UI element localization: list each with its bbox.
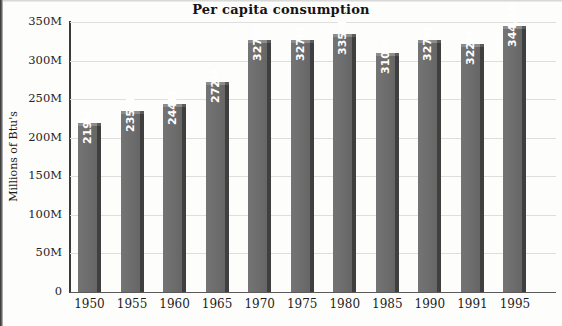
bar-front-face	[376, 53, 395, 292]
y-axis-tick-label: 150M	[4, 168, 62, 182]
bar-top-corner	[97, 123, 101, 126]
bar-top-face	[376, 53, 395, 56]
bar-side-face	[352, 37, 356, 292]
bar-front-face	[121, 111, 140, 292]
bar-top-face	[121, 111, 140, 114]
bar-side-face	[225, 85, 229, 292]
bar-side-face	[480, 47, 484, 292]
bar-top-face	[163, 104, 182, 107]
y-axis-tick-label: 300M	[4, 53, 62, 67]
bar-top-corner	[310, 40, 314, 43]
y-axis-tick-label: 50M	[4, 245, 62, 259]
bar-top-face	[248, 40, 267, 43]
bar-side-face	[97, 126, 101, 292]
bar-side-face	[395, 56, 399, 292]
bar-top-corner	[437, 40, 441, 43]
bar-front-face	[461, 44, 480, 292]
bar-top-face	[418, 40, 437, 43]
bar-side-face	[522, 29, 526, 292]
bar-side-face	[310, 43, 314, 292]
y-axis-tick-label: 100M	[4, 207, 62, 221]
bar[interactable]: 327M	[418, 40, 441, 292]
bar-top-corner	[225, 82, 229, 85]
bar-top-corner	[480, 44, 484, 47]
bar-side-face	[437, 43, 441, 292]
bar-front-face	[291, 40, 310, 292]
bar-top-corner	[522, 26, 526, 29]
x-axis-line	[70, 292, 556, 293]
y-axis-tick-label: 250M	[4, 91, 62, 105]
bar-top-corner	[352, 34, 356, 37]
bar-top-corner	[182, 104, 186, 107]
bar[interactable]: 244M	[163, 104, 186, 292]
bar-front-face	[503, 26, 522, 292]
bar-top-corner	[395, 53, 399, 56]
bar-front-face	[78, 123, 97, 292]
chart-container: Per capita consumption Millions of Btu's…	[0, 0, 562, 326]
x-axis-tick-label: 1995	[485, 297, 545, 311]
bar-front-face	[418, 40, 437, 292]
scan-edge-left	[0, 0, 3, 326]
bar-top-face	[461, 44, 480, 47]
bar[interactable]: 272M	[206, 82, 229, 292]
bar-front-face	[333, 34, 352, 292]
bar-side-face	[140, 114, 144, 292]
bar-top-face	[206, 82, 225, 85]
bar-top-face	[291, 40, 310, 43]
bar[interactable]: 327M	[291, 40, 314, 292]
bar-top-corner	[267, 40, 271, 43]
bar-side-face	[267, 43, 271, 292]
bar[interactable]: 335M	[333, 34, 356, 292]
bar[interactable]: 344.4M	[503, 26, 526, 292]
bar-top-face	[503, 26, 522, 29]
bar-top-face	[78, 123, 97, 126]
bar[interactable]: 235M	[121, 111, 144, 292]
bar-front-face	[206, 82, 225, 292]
y-axis-tick-label: 0	[4, 284, 62, 298]
bar-top-corner	[140, 111, 144, 114]
plot-area: 219M235M244M272M327M327M335M310M327M322M…	[70, 22, 556, 292]
y-axis-tick-label: 350M	[4, 14, 62, 28]
gridline	[70, 22, 556, 23]
bar[interactable]: 310M	[376, 53, 399, 292]
bar[interactable]: 322M	[461, 44, 484, 292]
y-axis-title: Millions of Btu's	[7, 97, 20, 217]
bar[interactable]: 327M	[248, 40, 271, 292]
bar-front-face	[248, 40, 267, 292]
bar-front-face	[163, 104, 182, 292]
y-axis-tick-label: 200M	[4, 130, 62, 144]
bar[interactable]: 219M	[78, 123, 101, 292]
bar-top-face	[333, 34, 352, 37]
chart-title: Per capita consumption	[0, 2, 562, 17]
bar-side-face	[182, 107, 186, 292]
